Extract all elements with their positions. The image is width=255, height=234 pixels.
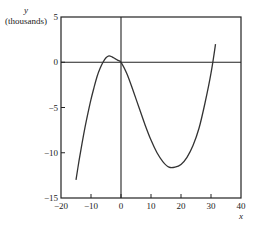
x-tick-label: 20 <box>177 201 187 211</box>
plot-frame <box>61 17 241 198</box>
x-tick-label: 0 <box>119 201 124 211</box>
y-axis-ticks: 50−5−10−15 <box>44 12 65 203</box>
x-tick-label: −10 <box>84 201 99 211</box>
x-tick-label: 10 <box>147 201 157 211</box>
y-tick-label: 0 <box>54 57 59 67</box>
y-tick-label: −10 <box>44 148 59 158</box>
data-curve <box>76 44 216 180</box>
x-tick-label: 40 <box>237 201 247 211</box>
zero-reference-lines <box>61 17 241 198</box>
y-axis-unit: (thousands) <box>5 16 47 26</box>
x-axis-label: x <box>238 211 243 221</box>
x-tick-label: 30 <box>207 201 217 211</box>
y-axis-label: y <box>23 5 28 15</box>
y-tick-label: −15 <box>44 193 59 203</box>
y-tick-label: 5 <box>54 12 59 22</box>
y-tick-label: −5 <box>48 103 58 113</box>
x-axis-ticks: −20−10010203040 <box>54 194 246 211</box>
chart: −20−10010203040 50−5−10−15 y (thousands)… <box>0 0 255 234</box>
